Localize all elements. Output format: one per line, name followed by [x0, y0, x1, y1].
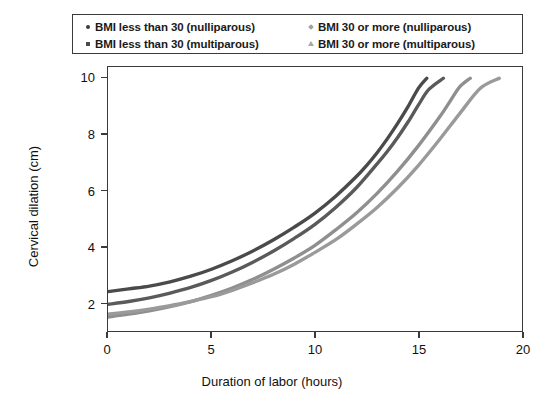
x-tick-label: 15	[412, 342, 426, 357]
circle-marker-icon	[81, 25, 95, 29]
legend-item-bmi-30-more-nulliparous: BMI 30 or more (nulliparous)	[304, 18, 475, 35]
legend-column-right: BMI 30 or more (nulliparous) BMI 30 or m…	[304, 18, 475, 52]
series-line	[108, 78, 470, 317]
x-tick-label: 5	[207, 342, 214, 357]
legend-column-left: BMI less than 30 (nulliparous) BMI less …	[81, 18, 259, 52]
legend-label: BMI less than 30 (multiparous)	[95, 38, 259, 50]
y-tick-label: 6	[65, 183, 95, 198]
chart-figure: BMI less than 30 (nulliparous) BMI less …	[0, 0, 544, 408]
legend-label: BMI less than 30 (nulliparous)	[95, 21, 255, 33]
x-tick-mark	[418, 332, 419, 338]
x-tick-label: 20	[516, 342, 530, 357]
y-tick-mark	[101, 246, 107, 247]
square-marker-icon	[81, 42, 95, 46]
x-tick-mark	[314, 332, 315, 338]
x-tick-mark	[522, 332, 523, 338]
series-line	[108, 78, 427, 291]
y-tick-mark	[101, 190, 107, 191]
x-tick-label: 10	[308, 342, 322, 357]
legend-label: BMI 30 or more (multiparous)	[318, 38, 475, 50]
diamond-marker-icon	[304, 25, 318, 29]
y-tick-label: 2	[65, 296, 95, 311]
x-tick-mark	[106, 332, 107, 338]
y-tick-label: 8	[65, 126, 95, 141]
legend-label: BMI 30 or more (nulliparous)	[318, 21, 471, 33]
plot-area	[107, 66, 523, 332]
triangle-marker-icon	[304, 41, 318, 46]
curve-canvas	[108, 67, 522, 331]
legend-item-bmi-30-more-multiparous: BMI 30 or more (multiparous)	[304, 35, 475, 52]
y-tick-mark	[101, 303, 107, 304]
y-tick-mark	[101, 77, 107, 78]
y-tick-label: 10	[65, 70, 95, 85]
x-tick-mark	[210, 332, 211, 338]
x-axis-label: Duration of labor (hours)	[0, 374, 544, 389]
y-tick-label: 4	[65, 240, 95, 255]
legend-item-bmi-less-30-nulliparous: BMI less than 30 (nulliparous)	[81, 18, 259, 35]
y-tick-mark	[101, 133, 107, 134]
x-tick-label: 0	[103, 342, 110, 357]
legend-item-bmi-less-30-multiparous: BMI less than 30 (multiparous)	[81, 35, 259, 52]
chart-legend: BMI less than 30 (nulliparous) BMI less …	[72, 14, 523, 54]
y-axis-label: Cervical dilation (cm)	[26, 82, 41, 332]
